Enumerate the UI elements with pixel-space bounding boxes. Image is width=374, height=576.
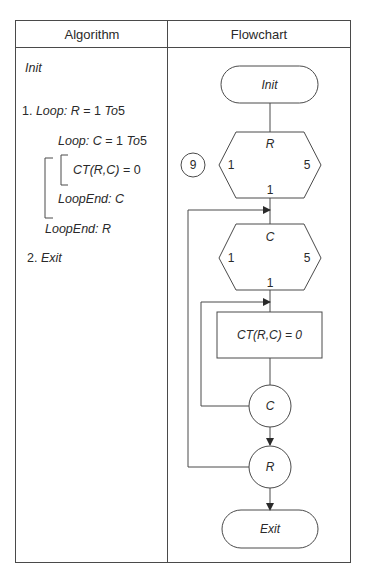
outer-loop-end: 5 (302, 158, 312, 172)
inner-loop-var: C (262, 230, 278, 244)
outer-loop-var: R (262, 137, 278, 151)
inner-connector-label: C (258, 399, 282, 413)
outer-loop-bracket (45, 158, 53, 218)
end-label: Exit (222, 522, 318, 536)
figure-number: 9 (185, 158, 201, 172)
start-label: Init (221, 78, 318, 92)
outer-loop-step: 1 (265, 183, 275, 197)
inner-loop-back-edge (201, 302, 270, 406)
process-label: CT(R,C) = 0 (217, 328, 322, 342)
inner-loop-step: 1 (265, 276, 275, 290)
inner-loop-end: 5 (302, 251, 312, 265)
inner-loop-bracket (61, 155, 68, 185)
outer-loop-start: 1 (226, 158, 236, 172)
inner-loop-start: 1 (226, 251, 236, 265)
outer-connector-label: R (258, 460, 282, 474)
